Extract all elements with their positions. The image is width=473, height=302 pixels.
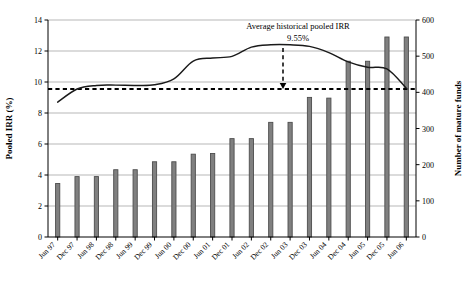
bar bbox=[75, 177, 79, 237]
bar bbox=[269, 122, 273, 237]
y2-axis-tick-label: 600 bbox=[422, 16, 434, 25]
bar bbox=[327, 98, 331, 237]
callout-label-line1: Average historical pooled IRR bbox=[246, 21, 350, 31]
chart-container: Average historical pooled IRR 9.55% 0246… bbox=[0, 0, 473, 302]
bar bbox=[211, 153, 215, 237]
y-axis-tick-label: 10 bbox=[34, 78, 42, 87]
bar bbox=[114, 170, 118, 237]
bar bbox=[133, 170, 137, 237]
bar bbox=[288, 122, 292, 237]
bar bbox=[249, 139, 253, 237]
y-axis-tick-label: 14 bbox=[34, 16, 42, 25]
y2-axis-tick-label: 400 bbox=[422, 88, 434, 97]
bar bbox=[172, 162, 176, 237]
bar bbox=[56, 183, 60, 237]
bar bbox=[152, 162, 156, 237]
bar bbox=[307, 97, 311, 237]
y2-axis-tick-label: 0 bbox=[422, 233, 426, 242]
y2-axis-tick-label: 300 bbox=[422, 125, 434, 134]
y-axis-tick-label: 8 bbox=[38, 109, 42, 118]
y2-axis-tick-label: 500 bbox=[422, 52, 434, 61]
bar bbox=[365, 61, 369, 237]
bar bbox=[191, 154, 195, 237]
y-axis-tick-label: 12 bbox=[34, 47, 42, 56]
bar bbox=[230, 139, 234, 237]
y-axis-tick-label: 4 bbox=[38, 171, 42, 180]
y-axis-tick-label: 0 bbox=[38, 233, 42, 242]
y2-axis-tick-label: 100 bbox=[422, 197, 434, 206]
bar bbox=[404, 37, 408, 237]
y-axis-tick-label: 2 bbox=[38, 202, 42, 211]
irr-mature-funds-combo-chart: Average historical pooled IRR 9.55% 0246… bbox=[0, 0, 473, 302]
bar bbox=[385, 37, 389, 237]
callout-label-line2: 9.55% bbox=[287, 33, 309, 43]
y-axis-title: Pooled IRR (%) bbox=[4, 98, 14, 160]
y2-axis-tick-label: 200 bbox=[422, 161, 434, 170]
bar bbox=[346, 61, 350, 237]
bar bbox=[94, 177, 98, 237]
y-axis-tick-label: 6 bbox=[38, 140, 42, 149]
y2-axis-title: Number of mature funds bbox=[453, 80, 463, 176]
